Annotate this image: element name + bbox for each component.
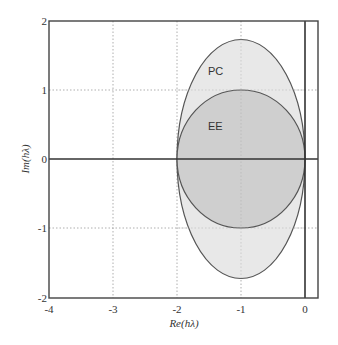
y-tick-0: 0 <box>42 153 48 165</box>
y-tick--1: -1 <box>38 222 47 234</box>
x-axis-label: Re(hλ) <box>168 317 199 330</box>
x-tick--1: -1 <box>236 303 245 315</box>
y-axis-label: Im(hλ) <box>19 144 32 175</box>
x-tick-0: 0 <box>302 303 308 315</box>
y-tick-2: 2 <box>42 15 48 27</box>
x-tick--4: -4 <box>44 303 54 315</box>
stability-region-chart: PC EE 2 1 0 -1 -2 -4 -3 -2 -1 0 Re(hλ) I… <box>0 0 338 345</box>
ee-label: EE <box>208 120 223 132</box>
y-tick-labels: 2 1 0 -1 -2 <box>38 15 48 304</box>
pc-label: PC <box>208 65 223 77</box>
x-tick--2: -2 <box>172 303 181 315</box>
x-tick--3: -3 <box>108 303 118 315</box>
y-tick-1: 1 <box>42 84 48 96</box>
x-tick-labels: -4 -3 -2 -1 0 <box>44 303 308 315</box>
